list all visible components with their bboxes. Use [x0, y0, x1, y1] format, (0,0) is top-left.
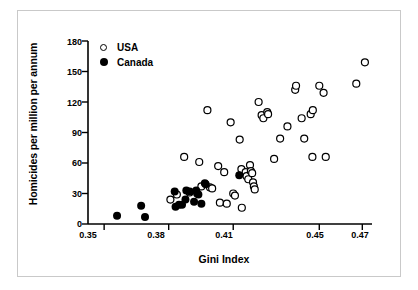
filled-circle-icon [100, 58, 113, 66]
legend-item-usa: USA [100, 40, 153, 54]
x-axis-ticks [104, 224, 362, 230]
legend-label-usa: USA [117, 42, 138, 53]
legend-label-canada: Canada [117, 57, 153, 68]
scatter-plot: Homicides per million per annum Gini Ind… [0, 0, 418, 290]
legend: USA Canada [100, 40, 153, 70]
figure-container: Homicides per million per annum Gini Ind… [0, 0, 418, 290]
y-axis-ticks [82, 41, 88, 224]
plot-canvas [0, 0, 418, 290]
legend-item-canada: Canada [100, 55, 153, 69]
open-circle-icon [100, 44, 113, 51]
